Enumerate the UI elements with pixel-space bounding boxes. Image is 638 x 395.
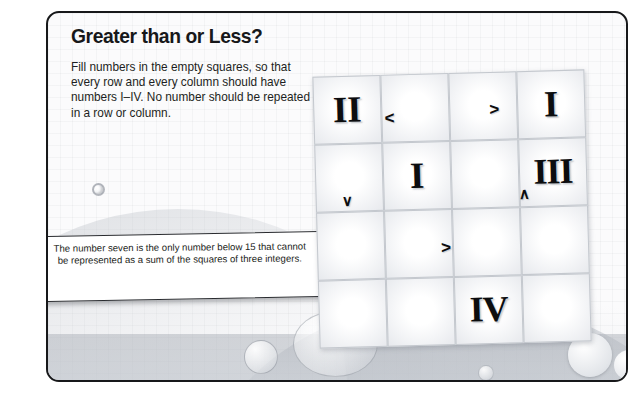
comparison-operator-less-than-icon: <	[384, 110, 394, 127]
grid-cell-r2c3[interactable]	[450, 139, 520, 209]
puzzle-grid-wrapper: II I I III IV < > ∨ ∧ >	[312, 69, 591, 348]
grid-cell-r3c4[interactable]	[520, 205, 590, 275]
page-description: Fill numbers in the empty squares, so th…	[71, 60, 312, 121]
comparison-operator-greater-than-down-icon: ∨	[342, 193, 353, 208]
grid-cell-r4c4[interactable]	[522, 273, 592, 343]
grid-cell-value: II	[332, 90, 362, 128]
grid-cell-r1c3[interactable]	[448, 71, 518, 141]
grid-cell-r4c2[interactable]	[386, 277, 456, 347]
grid-cell-r4c3[interactable]: IV	[454, 275, 524, 345]
page-frame: Greater than or Less? Fill numbers in th…	[46, 11, 628, 382]
instructions-block: Greater than or Less? Fill numbers in th…	[71, 24, 319, 121]
page-title: Greater than or Less?	[71, 24, 304, 48]
grid-cell-value: I	[543, 85, 558, 122]
grid-cell-value: III	[533, 153, 573, 190]
grid-cell-r4c1[interactable]	[318, 279, 388, 349]
grid-cell-r1c4[interactable]: I	[516, 69, 586, 139]
grid-cell-r3c1[interactable]	[316, 211, 386, 281]
puzzle-page: Greater than or Less? Fill numbers in th…	[0, 0, 638, 395]
comparison-operator-greater-than-icon: >	[441, 239, 451, 256]
grid-cell-r1c1[interactable]: II	[312, 75, 382, 145]
puzzle-grid[interactable]: II I I III IV	[312, 69, 591, 348]
grid-cell-value: IV	[469, 291, 508, 328]
comparison-operator-greater-than-up-icon: ∧	[518, 186, 529, 201]
grid-cell-r2c2[interactable]: I	[382, 141, 452, 211]
trivia-callout-text: The number seven is the only number belo…	[51, 241, 309, 268]
trivia-callout: The number seven is the only number belo…	[46, 231, 321, 303]
grid-cell-r3c3[interactable]	[452, 207, 522, 277]
comparison-operator-greater-than-icon: >	[489, 101, 499, 118]
grid-cell-value: I	[409, 156, 424, 193]
